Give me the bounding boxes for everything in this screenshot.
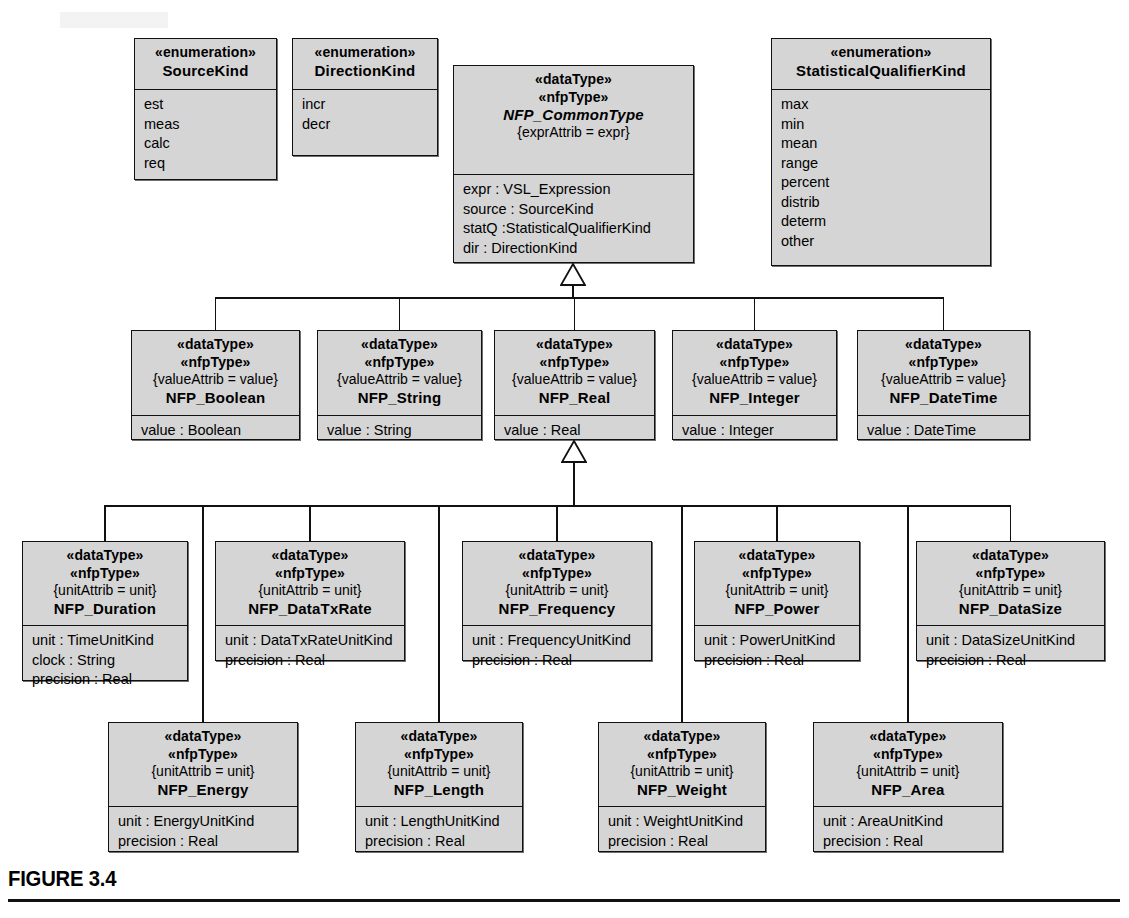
generalization-drop-row3-2 — [556, 505, 558, 541]
figure-caption: FIGURE 3.4 — [8, 866, 116, 892]
class-box-nfp-datasize: «dataType»«nfpType»{unitAttrib = unit}NF… — [916, 541, 1105, 661]
generalization-stem-root — [572, 284, 574, 297]
generalization-drop-row2-2 — [574, 297, 576, 330]
generalization-drop-row3-3 — [776, 505, 778, 541]
class-box-attributes: unit : PowerUnitKindprecision : Real — [695, 625, 859, 676]
generalization-bus-row2 — [216, 297, 944, 299]
enum-literal: incr — [302, 95, 437, 115]
attribute-row: value : DateTime — [867, 421, 1029, 441]
attribute-row: unit : LengthUnitKind — [365, 812, 522, 832]
class-box-header: «dataType»«nfpType»{unitAttrib = unit}NF… — [216, 542, 404, 625]
class-box-header: «dataType»«nfpType»{unitAttrib = unit}NF… — [599, 723, 765, 806]
class-box-attributes: incrdecr — [293, 89, 437, 140]
attribute-row: precision : Real — [365, 832, 522, 852]
attribute-row: value : Real — [504, 421, 654, 441]
stereotype-label: «dataType» — [495, 336, 654, 354]
class-box-nfp-commontype: «dataType»«nfpType»NFP_CommonType{exprAt… — [453, 65, 694, 263]
class-box-header: «dataType»«nfpType»{unitAttrib = unit}NF… — [463, 542, 651, 625]
class-name: DirectionKind — [293, 62, 437, 80]
generalization-drop-row2-3 — [754, 297, 756, 330]
attribute-row: source : SourceKind — [463, 200, 693, 220]
class-box-header: «dataType»«nfpType»{valueAttrib = value}… — [495, 331, 654, 415]
generalization-drop-row4-3 — [907, 505, 909, 722]
class-name: NFP_Area — [814, 781, 1002, 799]
stereotype-label: «nfpType» — [695, 565, 859, 583]
class-constraint: {valueAttrib = value} — [318, 371, 481, 389]
attribute-row: expr : VSL_Expression — [463, 180, 693, 200]
class-name: NFP_Boolean — [132, 389, 299, 407]
attribute-row: unit : AreaUnitKind — [823, 812, 1002, 832]
class-name: NFP_Frequency — [463, 600, 651, 618]
class-box-sourcekind: «enumeration»SourceKindestmeascalcreq — [134, 38, 277, 180]
class-constraint: {exprAttrib = expr} — [454, 124, 693, 142]
class-name: NFP_Energy — [109, 781, 297, 799]
stereotype-label: «dataType» — [109, 728, 297, 746]
generalization-drop-row3-0 — [104, 505, 106, 541]
generalization-drop-row3-4 — [1010, 505, 1012, 541]
stereotype-label: «nfpType» — [318, 354, 481, 372]
class-box-header: «enumeration»SourceKind — [135, 39, 276, 89]
stereotype-label: «dataType» — [132, 336, 299, 354]
class-box-nfp-real: «dataType»«nfpType»{valueAttrib = value}… — [494, 330, 655, 440]
class-name: NFP_Length — [356, 781, 522, 799]
attribute-row: value : String — [327, 421, 481, 441]
attribute-row: precision : Real — [704, 651, 859, 671]
class-name: NFP_CommonType — [454, 106, 693, 124]
class-name: NFP_Weight — [599, 781, 765, 799]
attribute-row: statQ :StatisticalQualifierKind — [463, 219, 693, 239]
stereotype-label: «nfpType» — [495, 354, 654, 372]
stereotype-label: «enumeration» — [293, 44, 437, 62]
class-box-header: «enumeration»StatisticalQualifierKind — [772, 39, 990, 89]
class-name: NFP_DataSize — [917, 600, 1104, 618]
stereotype-label: «dataType» — [814, 728, 1002, 746]
stereotype-label: «nfpType» — [599, 746, 765, 764]
stereotype-label: «dataType» — [216, 547, 404, 565]
class-box-nfp-power: «dataType»«nfpType»{unitAttrib = unit}NF… — [694, 541, 860, 661]
class-constraint: {unitAttrib = unit} — [216, 582, 404, 600]
class-name: NFP_Real — [495, 389, 654, 407]
class-name: NFP_String — [318, 389, 481, 407]
class-box-attributes: value : Integer — [673, 415, 836, 447]
attribute-row: precision : Real — [225, 651, 404, 671]
class-box-nfp-datetime: «dataType»«nfpType»{valueAttrib = value}… — [857, 330, 1030, 440]
class-constraint: {valueAttrib = value} — [495, 371, 654, 389]
enum-literal: decr — [302, 115, 437, 135]
class-constraint: {unitAttrib = unit} — [917, 582, 1104, 600]
stereotype-label: «dataType» — [454, 71, 693, 89]
caption-rule — [8, 899, 1120, 902]
class-box-header: «dataType»«nfpType»{unitAttrib = unit}NF… — [109, 723, 297, 806]
enum-literal: percent — [781, 173, 990, 193]
class-box-nfp-datatxrate: «dataType»«nfpType»{unitAttrib = unit}NF… — [215, 541, 405, 661]
class-name: NFP_DataTxRate — [216, 600, 404, 618]
class-constraint: {valueAttrib = value} — [673, 371, 836, 389]
stereotype-label: «nfpType» — [109, 746, 297, 764]
enum-literal: max — [781, 95, 990, 115]
class-box-attributes: expr : VSL_Expressionsource : SourceKind… — [454, 174, 693, 264]
class-constraint: {unitAttrib = unit} — [599, 763, 765, 781]
stereotype-label: «dataType» — [599, 728, 765, 746]
class-box-attributes: unit : LengthUnitKindprecision : Real — [356, 806, 522, 857]
class-name: NFP_DateTime — [858, 389, 1029, 407]
attribute-row: precision : Real — [472, 651, 651, 671]
enum-literal: mean — [781, 134, 990, 154]
class-name: NFP_Power — [695, 600, 859, 618]
enum-literal: determ — [781, 212, 990, 232]
class-box-directionkind: «enumeration»DirectionKindincrdecr — [292, 38, 438, 156]
attribute-row: precision : Real — [32, 670, 187, 690]
stereotype-label: «enumeration» — [772, 44, 990, 62]
class-constraint: {unitAttrib = unit} — [356, 763, 522, 781]
class-constraint: {unitAttrib = unit} — [463, 582, 651, 600]
stereotype-label: «nfpType» — [132, 354, 299, 372]
class-box-nfp-boolean: «dataType»«nfpType»{valueAttrib = value}… — [131, 330, 300, 440]
attribute-row: value : Boolean — [141, 421, 299, 441]
attribute-row: dir : DirectionKind — [463, 239, 693, 259]
stereotype-label: «dataType» — [23, 547, 187, 565]
enum-literal: range — [781, 154, 990, 174]
generalization-drop-row2-1 — [399, 297, 401, 330]
attribute-row: unit : PowerUnitKind — [704, 631, 859, 651]
class-box-attributes: unit : TimeUnitKindclock : Stringprecisi… — [23, 625, 187, 696]
attribute-row: unit : WeightUnitKind — [608, 812, 765, 832]
class-constraint: {unitAttrib = unit} — [814, 763, 1002, 781]
stereotype-label: «nfpType» — [356, 746, 522, 764]
stereotype-label: «nfpType» — [673, 354, 836, 372]
